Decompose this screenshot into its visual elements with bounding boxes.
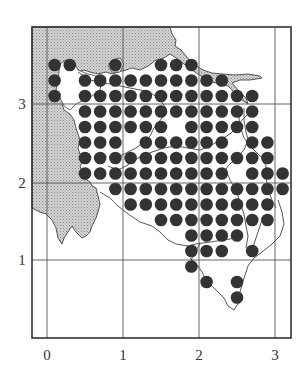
occurrence-dot: [216, 152, 229, 165]
occurrence-dot: [140, 167, 153, 180]
occurrence-dot: [216, 245, 229, 258]
occurrence-dot: [246, 214, 259, 227]
occurrence-dot: [124, 167, 137, 180]
occurrence-dot: [109, 74, 122, 87]
occurrence-dot: [261, 214, 274, 227]
occurrence-dot: [124, 152, 137, 165]
occurrence-dot: [185, 90, 198, 103]
occurrence-dot: [109, 90, 122, 103]
occurrence-dot: [94, 167, 107, 180]
occurrence-dot: [261, 167, 274, 180]
y-tick-label: 2: [18, 175, 26, 191]
occurrence-dot: [216, 214, 229, 227]
occurrence-dot: [155, 59, 168, 72]
occurrence-dot: [246, 245, 259, 258]
occurrence-dot: [200, 229, 213, 242]
occurrence-dot: [94, 90, 107, 103]
occurrence-dot: [79, 121, 92, 134]
occurrence-dot: [246, 90, 259, 103]
occurrence-dot: [140, 152, 153, 165]
occurrence-dot: [216, 229, 229, 242]
occurrence-dot: [140, 105, 153, 118]
occurrence-dot: [231, 214, 244, 227]
occurrence-dot: [170, 214, 183, 227]
x-tick-label: 0: [43, 347, 51, 363]
occurrence-dot: [185, 74, 198, 87]
occurrence-dot: [155, 167, 168, 180]
occurrence-dot: [276, 183, 289, 196]
occurrence-dot: [109, 121, 122, 134]
occurrence-dot: [200, 214, 213, 227]
occurrence-dot: [246, 121, 259, 134]
occurrence-dot: [109, 59, 122, 72]
occurrence-dot: [140, 74, 153, 87]
occurrence-dot: [216, 136, 229, 149]
occurrence-dot: [185, 183, 198, 196]
occurrence-dot: [109, 152, 122, 165]
occurrence-dot: [200, 167, 213, 180]
occurrence-dot: [170, 136, 183, 149]
occurrence-dot: [170, 198, 183, 211]
occurrence-dot: [109, 183, 122, 196]
occurrence-dot: [185, 245, 198, 258]
x-tick-label: 1: [119, 347, 127, 363]
occurrence-dot: [124, 198, 137, 211]
occurrence-dot: [48, 59, 61, 72]
occurrence-dot: [231, 105, 244, 118]
occurrence-dot: [276, 167, 289, 180]
occurrence-dot: [170, 74, 183, 87]
occurrence-dot: [216, 198, 229, 211]
occurrence-dot: [94, 121, 107, 134]
occurrence-dot: [170, 90, 183, 103]
occurrence-dot: [79, 105, 92, 118]
occurrence-dot: [155, 183, 168, 196]
occurrence-dot: [261, 183, 274, 196]
occurrence-dot: [170, 167, 183, 180]
occurrence-dot: [155, 90, 168, 103]
occurrence-dot: [261, 152, 274, 165]
occurrence-dot: [155, 136, 168, 149]
occurrence-dot: [216, 105, 229, 118]
occurrence-dot: [185, 214, 198, 227]
occurrence-dot: [216, 183, 229, 196]
occurrence-dot: [124, 90, 137, 103]
occurrence-dot: [94, 152, 107, 165]
y-axis-labels: 321: [18, 96, 26, 268]
occurrence-dot: [170, 152, 183, 165]
occurrence-dot: [216, 90, 229, 103]
occurrence-dot: [124, 121, 137, 134]
occurrence-dot: [79, 90, 92, 103]
occurrence-dot: [185, 167, 198, 180]
occurrence-dot: [200, 74, 213, 87]
occurrence-dot: [216, 121, 229, 134]
occurrence-dot: [231, 198, 244, 211]
occurrence-dot: [231, 229, 244, 242]
occurrence-dot: [140, 183, 153, 196]
occurrence-dot: [155, 198, 168, 211]
occurrence-dot: [200, 245, 213, 258]
occurrence-dot: [200, 276, 213, 289]
occurrence-dot: [79, 136, 92, 149]
distribution-map: 0123 321: [0, 0, 306, 380]
occurrence-dot: [216, 167, 229, 180]
occurrence-dot: [140, 136, 153, 149]
occurrence-dot: [124, 105, 137, 118]
occurrence-dot: [94, 136, 107, 149]
occurrence-dot: [185, 152, 198, 165]
x-tick-label: 2: [195, 347, 203, 363]
occurrence-dot: [216, 74, 229, 87]
occurrence-dot: [185, 121, 198, 134]
occurrence-dot: [200, 136, 213, 149]
occurrence-dot: [246, 198, 259, 211]
y-tick-label: 3: [18, 96, 26, 112]
occurrence-dot: [140, 90, 153, 103]
occurrence-dot: [109, 105, 122, 118]
occurrence-dot: [79, 74, 92, 87]
occurrence-dot: [246, 136, 259, 149]
occurrence-dot: [185, 105, 198, 118]
occurrence-dot: [231, 276, 244, 289]
occurrence-dot: [64, 59, 77, 72]
occurrence-dot: [200, 152, 213, 165]
occurrence-dot: [79, 167, 92, 180]
occurrence-dot: [246, 105, 259, 118]
